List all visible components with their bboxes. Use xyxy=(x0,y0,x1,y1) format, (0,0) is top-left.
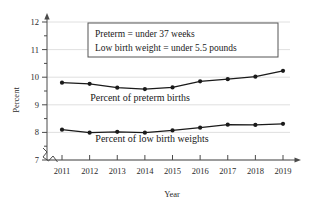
data-point xyxy=(170,128,174,132)
data-point xyxy=(253,75,257,79)
data-point xyxy=(88,131,92,135)
y-tick-label: 8 xyxy=(35,127,39,137)
data-point xyxy=(198,79,202,83)
y-tick-label: 10 xyxy=(31,72,40,82)
data-point xyxy=(143,87,147,91)
x-tick-label: 2011 xyxy=(54,166,71,176)
series-label-low-birth-weight: Percent of low birth weights xyxy=(95,133,208,144)
x-tick-label: 2015 xyxy=(164,166,181,176)
line-chart: 789101112 201120122013201420152016201720… xyxy=(0,0,311,214)
x-tick-label: 2017 xyxy=(219,166,236,176)
y-tick-label: 9 xyxy=(35,100,39,110)
data-point xyxy=(60,81,64,85)
data-point xyxy=(281,69,285,73)
chart-container: 789101112 201120122013201420152016201720… xyxy=(0,0,311,214)
y-tick-label: 7 xyxy=(35,155,39,165)
x-axis-tick-labels: 201120122013201420152016201720182019 xyxy=(54,166,292,176)
y-axis-title: Percent xyxy=(11,87,21,113)
y-tick-label: 11 xyxy=(31,45,39,55)
annotation-line-2: Low birth weight = under 5.5 pounds xyxy=(95,43,237,53)
y-tick-label: 12 xyxy=(31,17,40,27)
data-point xyxy=(88,82,92,86)
x-tick-label: 2019 xyxy=(275,166,292,176)
data-point xyxy=(198,126,202,130)
series-label-preterm: Percent of preterm births xyxy=(90,92,190,103)
x-tick-label: 2012 xyxy=(81,166,98,176)
x-tick-label: 2014 xyxy=(136,166,154,176)
data-point xyxy=(253,123,257,127)
annotation-line-1: Preterm = under 37 weeks xyxy=(95,29,195,39)
data-point xyxy=(281,122,285,126)
x-tick-label: 2016 xyxy=(192,166,209,176)
x-tick-label: 2018 xyxy=(247,166,264,176)
data-point xyxy=(115,86,119,90)
data-point xyxy=(170,85,174,89)
data-point xyxy=(226,123,230,127)
data-point xyxy=(226,77,230,81)
data-point xyxy=(60,128,64,132)
x-tick-label: 2013 xyxy=(109,166,126,176)
x-axis-title: Year xyxy=(164,189,180,199)
